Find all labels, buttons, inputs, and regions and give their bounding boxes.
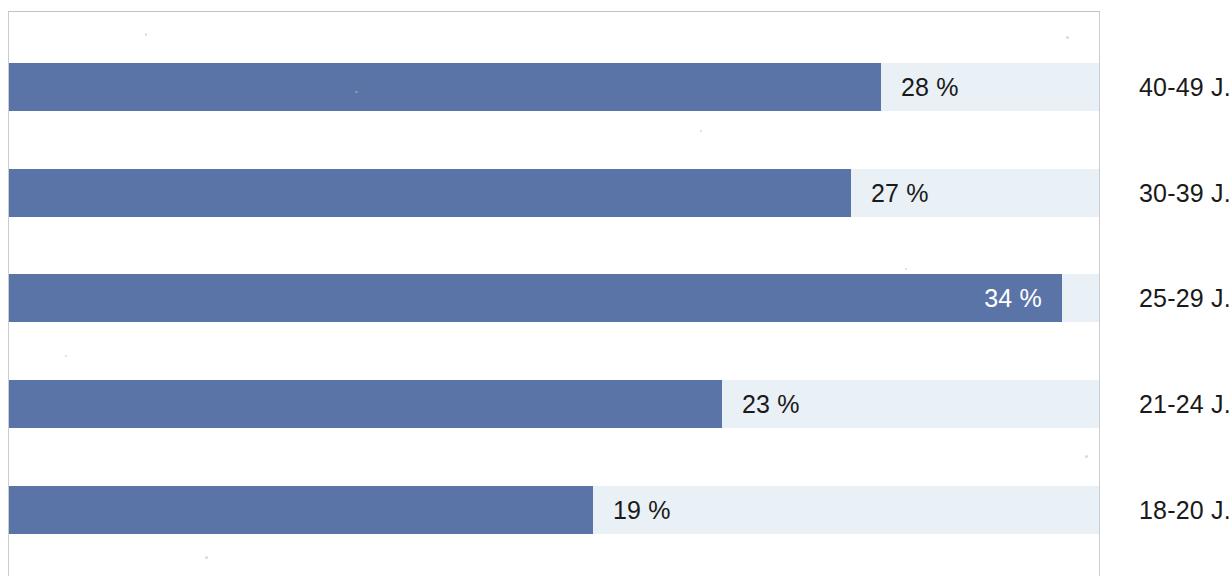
bar-value-label: 23 %	[742, 380, 800, 428]
bar-fill	[9, 63, 881, 111]
scan-speck	[145, 33, 147, 36]
scan-speck	[1085, 455, 1088, 458]
category-label: 30-39 J.	[1139, 169, 1231, 217]
scan-speck	[65, 355, 67, 357]
bar-row: 27 % 30-39 J.	[9, 169, 1227, 217]
scan-speck	[905, 268, 907, 270]
scan-speck	[355, 91, 358, 93]
bar-value-label: 28 %	[901, 63, 959, 111]
bar-row: 23 % 21-24 J.	[9, 380, 1227, 428]
bar-value-label: 19 %	[613, 486, 671, 534]
bar-row: 19 % 18-20 J.	[9, 486, 1227, 534]
bar-fill	[9, 380, 722, 428]
bar-row: 34 % 25-29 J.	[9, 274, 1227, 322]
bar-value-label: 27 %	[871, 169, 929, 217]
category-label: 18-20 J.	[1139, 486, 1231, 534]
scan-speck	[700, 130, 702, 132]
bar-value-label: 34 %	[952, 274, 1042, 322]
bar-fill	[9, 486, 593, 534]
scan-speck	[205, 556, 208, 559]
scan-speck	[1066, 36, 1069, 39]
bar-fill	[9, 274, 1062, 322]
category-label: 21-24 J.	[1139, 380, 1231, 428]
category-label: 40-49 J.	[1139, 63, 1231, 111]
category-label: 25-29 J.	[1139, 274, 1231, 322]
bar-fill	[9, 169, 851, 217]
bar-row: 28 % 40-49 J.	[9, 63, 1227, 111]
